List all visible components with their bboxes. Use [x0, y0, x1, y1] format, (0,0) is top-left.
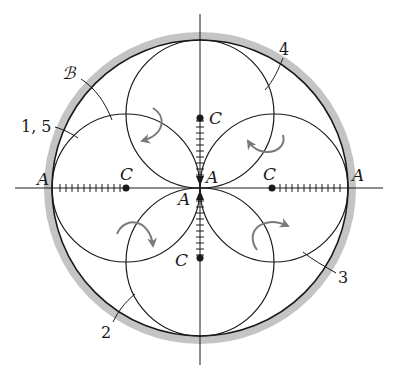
rotation-arrow-upper-right	[248, 135, 284, 152]
rolling-circle-diagram: A A A A C C C C ℬ 1, 5 4 2 3	[0, 0, 398, 379]
center-c-right	[269, 185, 276, 192]
label-c-top: C	[209, 108, 222, 128]
label-c-bottom: C	[175, 250, 188, 270]
point-a-lower-marker	[196, 190, 204, 200]
point-a-upper-marker	[196, 176, 204, 186]
label-position-2: 2	[101, 323, 111, 342]
label-c-right: C	[263, 164, 276, 184]
label-a-center-upper: A	[204, 167, 218, 187]
label-b: ℬ	[62, 63, 77, 83]
label-a-right: A	[350, 165, 364, 185]
label-c-left: C	[120, 164, 133, 184]
label-a-left: A	[35, 169, 49, 189]
label-position-3: 3	[338, 268, 348, 287]
center-c-top	[197, 115, 204, 122]
label-a-center-lower: A	[176, 189, 190, 209]
center-c-left	[123, 185, 130, 192]
rotation-arrow-upper-left	[142, 108, 162, 141]
label-position-4: 4	[279, 40, 289, 59]
label-position-1-5: 1, 5	[21, 117, 52, 136]
center-c-bottom	[197, 255, 204, 262]
rotation-arrow-lower-right	[253, 222, 288, 250]
